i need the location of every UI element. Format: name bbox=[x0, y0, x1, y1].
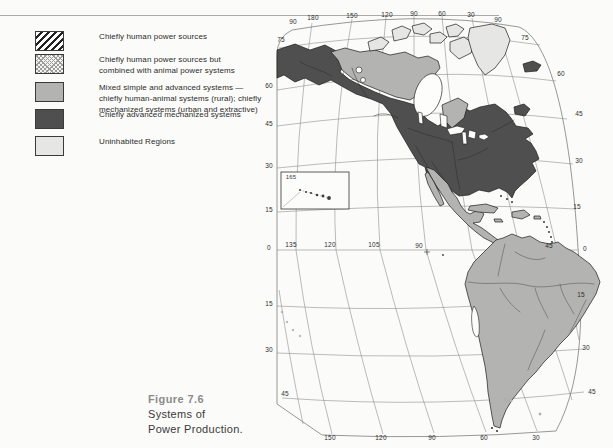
lon-label: 120 bbox=[324, 241, 335, 248]
lon-label: 45 bbox=[545, 242, 553, 249]
americas-map: 90 180 150 120 90 60 30 90 75 60 45 30 1… bbox=[0, 0, 613, 448]
lon-label: 60 bbox=[480, 434, 488, 441]
lat-label: 30 bbox=[575, 157, 583, 164]
lon-label: 90 bbox=[494, 16, 502, 23]
lon-label: 105 bbox=[368, 241, 379, 248]
jamaica bbox=[494, 219, 503, 222]
tierra-del-fuego bbox=[491, 427, 493, 429]
puerto-rico bbox=[534, 216, 541, 219]
lat-label: 45 bbox=[588, 388, 596, 395]
lon-label: 135 bbox=[285, 241, 296, 248]
lat-label: 45 bbox=[575, 110, 583, 117]
lat-label: 45 bbox=[281, 390, 289, 397]
lat-label: 15 bbox=[577, 291, 585, 298]
lat-label: 60 bbox=[557, 70, 565, 77]
lat-label: 0 bbox=[267, 244, 271, 251]
lon-label: 30 bbox=[532, 434, 540, 441]
pacific-islands bbox=[281, 249, 444, 337]
lat-label: 0 bbox=[583, 245, 587, 252]
lat-label: 30 bbox=[582, 344, 590, 351]
hawaii-island bbox=[327, 196, 331, 200]
lat-label: 75 bbox=[277, 36, 285, 43]
lon-label: 90 bbox=[289, 18, 297, 25]
cuba bbox=[468, 204, 498, 213]
lon-label: 90 bbox=[428, 434, 436, 441]
lon-label: 90 bbox=[410, 10, 418, 17]
lat-label: 30 bbox=[265, 346, 273, 353]
map-canvas bbox=[0, 0, 613, 448]
lon-label: 90 bbox=[415, 242, 423, 249]
lon-label: 120 bbox=[375, 434, 386, 441]
lon-label: 120 bbox=[381, 11, 392, 18]
figure-page: Chiefly human power sources Chiefly huma… bbox=[0, 0, 613, 448]
lat-label: 45 bbox=[265, 120, 273, 127]
lat-label: 60 bbox=[265, 82, 273, 89]
galapagos bbox=[442, 254, 444, 256]
james-bay bbox=[440, 114, 447, 128]
lon-label: 30 bbox=[467, 11, 475, 18]
lat-label: 15 bbox=[265, 300, 273, 307]
greenland bbox=[468, 24, 510, 75]
lon-label: 180 bbox=[307, 14, 318, 21]
falkland-islands bbox=[505, 399, 508, 402]
lat-label: 75 bbox=[521, 34, 529, 41]
hispaniola bbox=[512, 210, 530, 219]
lat-label: 15 bbox=[265, 206, 273, 213]
lon-label: 150 bbox=[346, 12, 357, 19]
lon-label: 60 bbox=[438, 10, 446, 17]
inset-lon-label: 165 bbox=[286, 174, 297, 180]
lat-label: 15 bbox=[573, 203, 581, 210]
lon-label: 150 bbox=[324, 434, 335, 441]
lat-label: 30 bbox=[265, 162, 273, 169]
iceland bbox=[523, 61, 541, 72]
